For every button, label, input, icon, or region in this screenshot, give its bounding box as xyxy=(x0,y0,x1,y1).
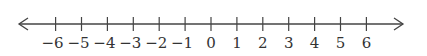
tick-labels: −6−5−4−3−2−10123456 xyxy=(42,34,372,52)
tick-label: 6 xyxy=(362,34,372,52)
tick-label: 5 xyxy=(336,34,346,52)
tick-label: −5 xyxy=(67,34,89,52)
tick-label: −4 xyxy=(93,34,115,52)
tick-label: 3 xyxy=(284,34,294,52)
tick-label: 4 xyxy=(310,34,320,52)
number-line: −6−5−4−3−2−10123456 xyxy=(0,0,427,56)
tick-label: −3 xyxy=(119,34,141,52)
tick-label: 1 xyxy=(232,34,242,52)
tick-label: 2 xyxy=(258,34,268,52)
tick-label: −6 xyxy=(42,34,64,52)
tick-label: −2 xyxy=(145,34,167,52)
tick-label: 0 xyxy=(206,34,216,52)
tick-label: −1 xyxy=(171,34,193,52)
